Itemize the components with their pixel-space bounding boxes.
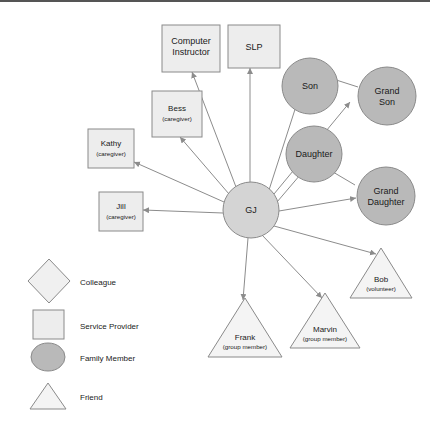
node-sub-jill: (caregiver) bbox=[106, 213, 136, 220]
legend-label-friend: Friend bbox=[80, 393, 103, 402]
edge-gj-frank bbox=[243, 238, 248, 300]
node-sub-frank: (group member) bbox=[223, 343, 267, 350]
legend-item-colleague: Colleague bbox=[28, 259, 117, 303]
legend: Colleague Service Provider Family Member… bbox=[28, 259, 139, 409]
node-frank[interactable]: Frank (group member) bbox=[208, 298, 282, 357]
node-son[interactable]: Son bbox=[282, 58, 338, 114]
node-label-gj: GJ bbox=[245, 205, 257, 215]
edge-gj-kathy bbox=[134, 162, 224, 202]
node-slp[interactable]: SLP bbox=[228, 25, 280, 68]
node-label-grand-daughter-line1: Grand bbox=[373, 186, 398, 196]
legend-item-service-provider: Service Provider bbox=[33, 310, 139, 339]
edge-gj-grand-daughter bbox=[279, 198, 356, 211]
legend-label-service-provider: Service Provider bbox=[80, 322, 139, 331]
node-label-kathy: Kathy bbox=[101, 139, 121, 148]
node-bob[interactable]: Bob (volunteer) bbox=[350, 248, 412, 298]
node-marvin[interactable]: Marvin (group member) bbox=[290, 293, 360, 348]
node-daughter[interactable]: Daughter bbox=[286, 126, 342, 182]
node-jill[interactable]: Jill (caregiver) bbox=[99, 192, 143, 231]
node-label-grand-daughter-line2: Daughter bbox=[367, 197, 404, 207]
node-label-jill: Jill bbox=[116, 202, 126, 211]
edge-gj-jill bbox=[143, 210, 223, 213]
node-computer-instructor[interactable]: Computer Instructor bbox=[162, 25, 220, 72]
node-sub-marvin: (group member) bbox=[303, 335, 347, 342]
node-label-slp: SLP bbox=[245, 42, 262, 52]
node-sub-bob: (volunteer) bbox=[366, 285, 396, 292]
node-label-bess: Bess bbox=[168, 104, 186, 113]
node-label-grand-son-line1: Grand bbox=[374, 86, 399, 96]
node-label-computer-instructor-line2: Instructor bbox=[172, 47, 210, 57]
edge-gj-marvin bbox=[262, 235, 322, 298]
legend-item-family-member: Family Member bbox=[31, 343, 135, 371]
node-label-marvin: Marvin bbox=[313, 325, 337, 334]
network-diagram: Computer Instructor SLP Bess (caregiver)… bbox=[0, 2, 430, 422]
node-sub-bess: (caregiver) bbox=[162, 115, 192, 122]
legend-item-friend: Friend bbox=[30, 383, 103, 409]
edge-gj-bob bbox=[274, 226, 376, 254]
node-grand-daughter[interactable]: Grand Daughter bbox=[357, 167, 415, 225]
node-label-grand-son-line2: Son bbox=[379, 97, 395, 107]
node-label-bob: Bob bbox=[374, 275, 389, 284]
node-kathy[interactable]: Kathy (caregiver) bbox=[88, 129, 134, 168]
legend-label-colleague: Colleague bbox=[80, 278, 117, 287]
node-gj-ego[interactable]: GJ bbox=[223, 182, 279, 238]
node-label-computer-instructor-line1: Computer bbox=[171, 36, 211, 46]
legend-label-family-member: Family Member bbox=[80, 354, 135, 363]
node-sub-kathy: (caregiver) bbox=[96, 150, 126, 157]
node-label-frank: Frank bbox=[235, 333, 256, 342]
node-bess[interactable]: Bess (caregiver) bbox=[152, 91, 202, 137]
edge-daughter-grand-daughter bbox=[333, 172, 355, 185]
node-label-son: Son bbox=[302, 81, 318, 91]
node-label-daughter: Daughter bbox=[295, 149, 332, 159]
node-grand-son[interactable]: Grand Son bbox=[358, 67, 416, 125]
diagram-canvas: Computer Instructor SLP Bess (caregiver)… bbox=[0, 0, 430, 422]
